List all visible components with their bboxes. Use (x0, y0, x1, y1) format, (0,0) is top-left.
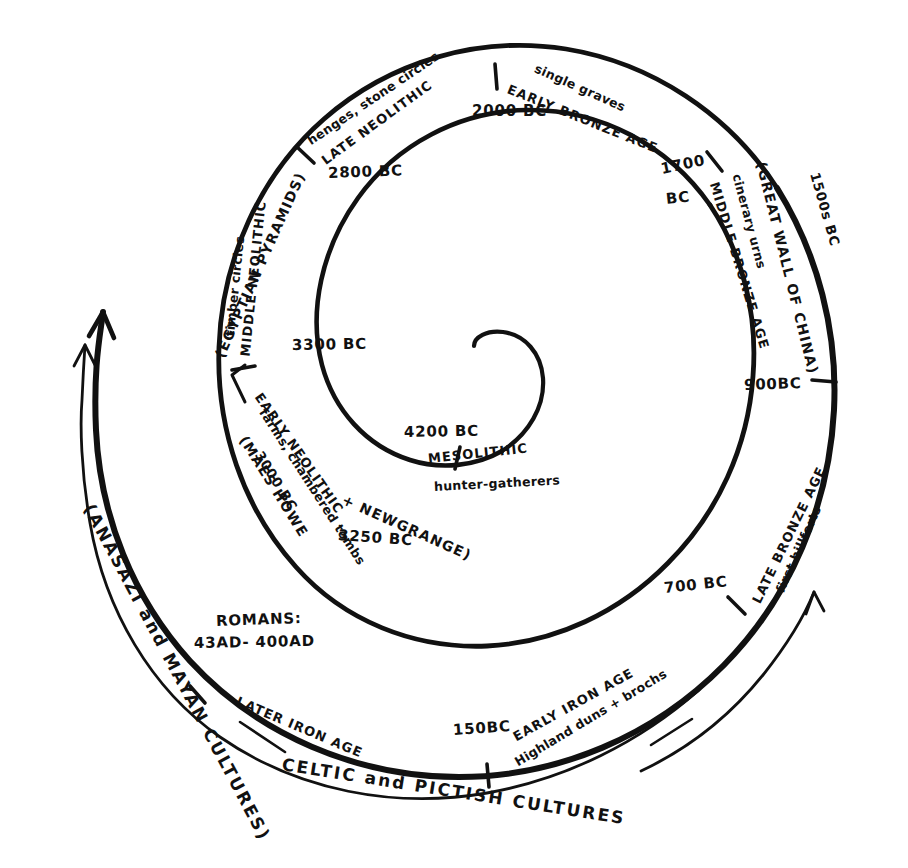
spiral-center-hook (474, 332, 543, 451)
annotation-romans-label: ROMANS: (216, 611, 302, 629)
date-2000bc: 2000 BC (472, 104, 547, 119)
tick-2800bc (297, 147, 314, 163)
iron-age-pointer-arc (641, 592, 814, 771)
date-150bc: 150BC (452, 719, 511, 738)
date-900bc: 900BC (744, 376, 802, 393)
date-3300bc: 3300 BC (292, 337, 367, 353)
tick-150bc (487, 764, 489, 787)
date-1700-bc: BC (665, 190, 690, 207)
world-cultures-arc (81, 345, 699, 799)
tick-900bc (812, 380, 836, 382)
tick-700bc (728, 597, 745, 614)
spiral-timeline-diagram: MESOLITHIC hunter-gatherers 4200 BC EARL… (0, 0, 908, 868)
annotation-romans-dates: 43AD- 400AD (194, 634, 315, 651)
iron-age-pointer-arrowhead (806, 592, 824, 614)
tick-1700bc (707, 152, 722, 171)
tick-2000bc (495, 64, 497, 89)
date-4200bc: 4200 BC (404, 424, 479, 440)
date-2800bc: 2800 BC (328, 163, 403, 181)
